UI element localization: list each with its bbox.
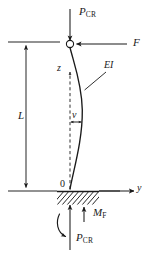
- horizontal-force-label: F: [133, 37, 140, 48]
- z-axis-label: z: [57, 63, 61, 73]
- deflection-label: v: [72, 110, 76, 120]
- z-axis-symbol: z: [57, 62, 61, 73]
- deflection-symbol: v: [72, 109, 76, 120]
- flexural-rigidity-symbol: EI: [104, 59, 113, 70]
- column-buckling-figure: PCR F EI z y v L 0 MF PCR: [0, 0, 157, 259]
- length-symbol: L: [18, 109, 24, 121]
- horizontal-force-symbol: F: [133, 36, 140, 48]
- length-label: L: [18, 110, 24, 121]
- top-load-subscript: CR: [86, 10, 96, 19]
- top-load-symbol: P: [79, 5, 86, 17]
- fixed-moment-label: MF: [93, 207, 107, 218]
- origin-symbol: 0: [60, 178, 65, 189]
- bottom-load-label: PCR: [76, 232, 93, 243]
- base-hatching: [52, 190, 105, 205]
- y-axis-label: y: [137, 183, 141, 193]
- top-load-label: PCR: [79, 6, 96, 17]
- bottom-load-subscript: CR: [83, 236, 93, 245]
- flexural-rigidity-label: EI: [104, 60, 113, 70]
- fixed-end-moment-arc: [57, 214, 65, 237]
- pin-support-circle: [66, 40, 73, 47]
- fixed-moment-subscript: F: [102, 211, 106, 220]
- fixed-support-base: [52, 190, 105, 205]
- y-axis-symbol: y: [137, 182, 141, 193]
- origin-label: 0: [60, 179, 65, 189]
- fixed-moment-symbol: M: [93, 206, 102, 218]
- bottom-load-symbol: P: [76, 231, 83, 243]
- flexural-rigidity-leader-line: [85, 72, 106, 90]
